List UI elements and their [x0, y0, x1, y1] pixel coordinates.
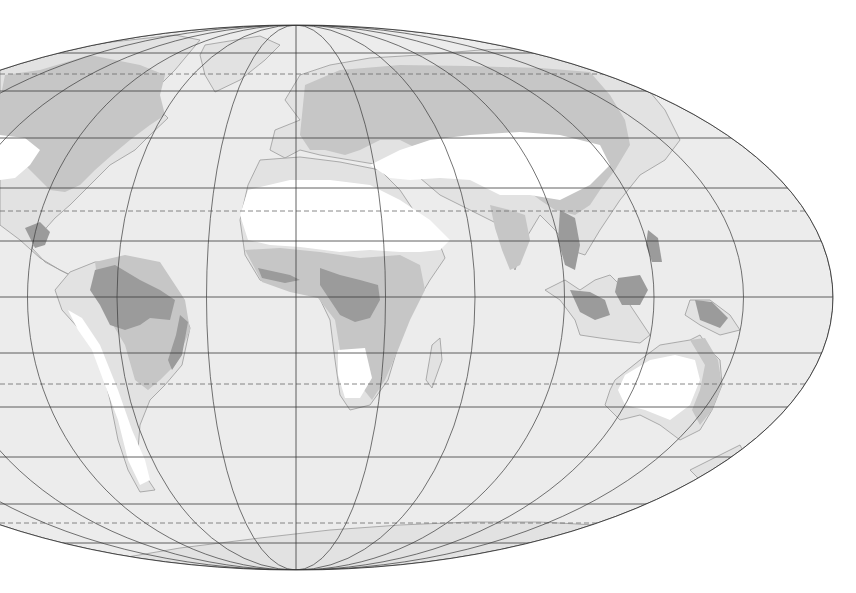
world-biome-map	[0, 0, 856, 593]
map-canvas	[0, 0, 856, 593]
